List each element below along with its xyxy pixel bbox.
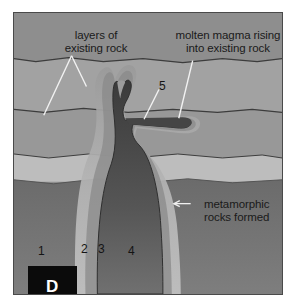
unit-number-3: 3 — [98, 242, 105, 256]
geology-cross-section: layers of existing rock molten magma ris… — [13, 12, 283, 295]
panel-letter-box: D — [28, 266, 77, 295]
callout-number-5: 5 — [159, 79, 166, 93]
panel-letter-d: D — [46, 277, 59, 295]
label-layers-existing-rock: layers of existing rock — [36, 29, 156, 55]
unit-number-1: 1 — [38, 244, 45, 258]
label-molten-magma: molten magma rising into existing rock — [162, 29, 283, 55]
cross-section-svg — [14, 13, 282, 294]
figure-root: layers of existing rock molten magma ris… — [0, 0, 289, 301]
label-metamorphic-rocks: metamorphic rocks formed — [204, 198, 283, 224]
unit-number-4: 4 — [128, 244, 135, 258]
stratum-third — [14, 108, 282, 158]
stratum-second — [14, 58, 282, 113]
unit-number-2: 2 — [81, 242, 88, 256]
strata-group — [14, 13, 282, 294]
